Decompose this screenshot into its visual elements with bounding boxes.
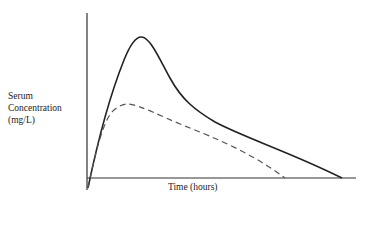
dashed-concentration-curve	[88, 104, 285, 188]
y-axis-label-line: Concentration	[8, 102, 62, 114]
y-axis-label-line: Serum	[8, 90, 62, 102]
y-axis-label: Serum Concentration (mg/L)	[8, 90, 62, 126]
y-axis-label-line: (mg/L)	[8, 114, 62, 126]
solid-concentration-curve	[88, 37, 342, 188]
x-axis-label: Time (hours)	[168, 182, 218, 192]
